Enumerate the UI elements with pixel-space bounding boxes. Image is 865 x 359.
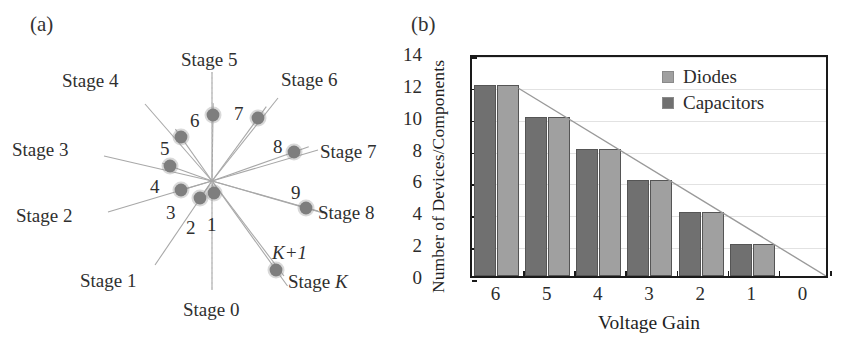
x-tick-label-5: 5: [527, 284, 567, 303]
bar-diodes-gain-1: [753, 244, 775, 276]
legend-item-capacitors: Capacitors: [662, 93, 764, 112]
bar-capacitors-gain-4: [576, 149, 598, 276]
y-tick-label-6: 6: [392, 172, 422, 191]
node-index-label-6: 6: [190, 111, 200, 130]
bar-diodes-gain-2: [702, 212, 724, 276]
spoke-line-6: [212, 98, 278, 181]
x-tick-label-3: 3: [629, 284, 669, 303]
legend-label-diodes: Diodes: [683, 67, 737, 86]
node-index-label-8: 8: [273, 137, 283, 156]
chart-legend: DiodesCapacitors: [662, 67, 764, 119]
x-tick-label-2: 2: [680, 284, 720, 303]
panel-b-bar-chart: (b) Number of Devices/Components 0246810…: [432, 0, 865, 359]
stage-label-stage-7: Stage 7: [320, 142, 376, 161]
node-index-label-1: 1: [207, 215, 217, 234]
bar-diodes-gain-4: [599, 149, 621, 276]
y-tick-label-10: 10: [392, 109, 422, 128]
bar-diodes-gain-3: [650, 180, 672, 276]
node-dot-3: [173, 182, 190, 199]
stage-label-stage-0: Stage 0: [183, 300, 239, 319]
node-dot-4: [162, 158, 179, 175]
node-dot-5: [173, 129, 190, 146]
stage-label-stage-1: Stage 1: [80, 271, 136, 290]
y-tick-label-2: 2: [392, 236, 422, 255]
panel-b-label: (b): [411, 12, 436, 37]
spoke-line-7: [212, 150, 318, 181]
stage-label-stage-k: Stage K: [288, 272, 348, 291]
bar-capacitors-gain-5: [525, 117, 547, 276]
stage-label-stage-2: Stage 2: [16, 206, 72, 225]
stage-label-stage-3: Stage 3: [12, 140, 68, 159]
bar-capacitors-gain-2: [679, 212, 701, 276]
node-dot-2: [192, 190, 209, 207]
panel-a-radial-stage-diagram: (a) 123456789K+1 Stage 0Stage 1Stage 2St…: [0, 0, 432, 359]
x-tick-label-1: 1: [731, 284, 771, 303]
node-index-label-4: 4: [150, 177, 160, 196]
node-index-label-3: 3: [166, 203, 176, 222]
y-tick-0: [472, 280, 477, 282]
y-tick-label-0: 0: [392, 268, 422, 287]
x-tick-0: [830, 271, 832, 276]
legend-item-diodes: Diodes: [662, 67, 764, 86]
y-tick-label-12: 12: [392, 77, 422, 96]
bar-capacitors-gain-1: [730, 244, 752, 276]
node-dot-8: [286, 144, 303, 161]
x-tick-label-4: 4: [578, 284, 618, 303]
stage-label-stage-5: Stage 5: [181, 50, 237, 69]
gridline-14: [472, 57, 826, 58]
node-index-label-K+1: K+1: [272, 243, 307, 262]
y-tick-label-8: 8: [392, 141, 422, 160]
stage-label-stage-4: Stage 4: [62, 71, 118, 90]
legend-swatch-icon-capacitors: [662, 97, 674, 109]
node-dot-6: [205, 107, 222, 124]
node-index-label-2: 2: [186, 218, 196, 237]
node-index-label-9: 9: [291, 183, 301, 202]
plot-area: DiodesCapacitors: [470, 55, 828, 278]
y-tick-label-14: 14: [392, 45, 422, 64]
bar-capacitors-gain-3: [627, 180, 649, 276]
figure-root: (a) 123456789K+1 Stage 0Stage 1Stage 2St…: [0, 0, 865, 359]
legend-label-capacitors: Capacitors: [683, 93, 764, 112]
x-tick-1: [779, 271, 781, 276]
node-dot-K+1: [268, 262, 285, 279]
stage-label-stage-8: Stage 8: [318, 203, 374, 222]
legend-swatch-icon-diodes: [662, 71, 674, 83]
node-index-label-7: 7: [234, 104, 244, 123]
bar-capacitors-gain-6: [474, 85, 496, 276]
x-axis-title: Voltage Gain: [470, 312, 828, 334]
gridline-12: [472, 89, 826, 90]
stage-label-stage-6: Stage 6: [281, 70, 337, 89]
x-tick-label-6: 6: [476, 284, 516, 303]
node-dot-7: [250, 110, 267, 127]
y-tick-14: [472, 57, 477, 59]
node-index-label-5: 5: [160, 139, 170, 158]
x-tick-label-0: 0: [782, 284, 822, 303]
bar-diodes-gain-6: [497, 85, 519, 276]
y-tick-label-4: 4: [392, 204, 422, 223]
bar-diodes-gain-5: [548, 117, 570, 276]
